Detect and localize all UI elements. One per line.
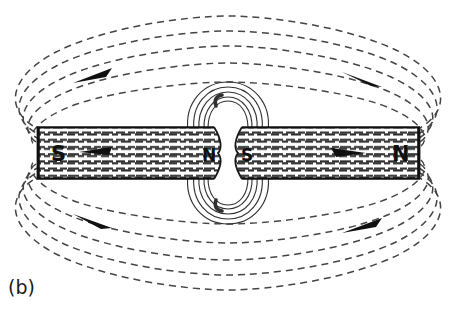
figure-caption: (b) <box>8 276 35 298</box>
magnet-air-gap <box>214 127 242 179</box>
field-arrow-lower-right <box>342 218 382 233</box>
field-line-lower-1 <box>15 176 440 290</box>
field-arrow-upper-right <box>342 72 382 87</box>
gap-cap-lower <box>215 200 222 211</box>
pole-label-gap-s: S <box>241 145 253 165</box>
figure-canvas: S N S N (b) <box>0 0 456 311</box>
gap-field-line-up-5 <box>188 82 269 132</box>
field-arrow-lower-left <box>73 214 112 229</box>
field-line-upper-1 <box>15 16 440 130</box>
gap-field-line-dn-5 <box>188 174 269 224</box>
bar-magnet <box>37 127 420 179</box>
gap-cap-upper <box>215 95 222 106</box>
pole-label-right-n: N <box>392 142 410 166</box>
magnetic-field-figure: S N S N (b) <box>0 0 456 311</box>
pole-label-left-s: S <box>51 142 66 166</box>
pole-label-gap-n: N <box>202 145 216 165</box>
field-arrow-upper-left <box>73 68 112 83</box>
